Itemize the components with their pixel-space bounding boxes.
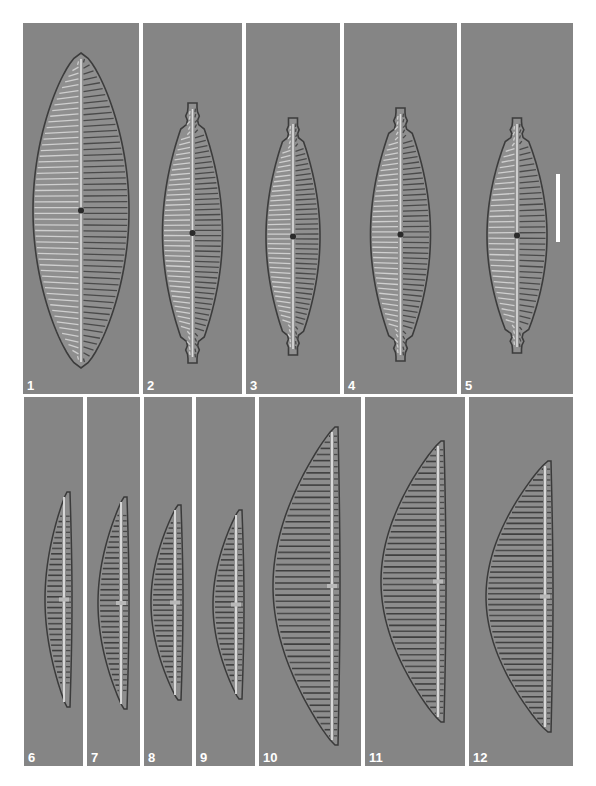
figure-label: 1 <box>27 379 34 392</box>
figure-panel-6: 6 <box>24 397 83 766</box>
figure-panel-9: 9 <box>196 397 255 766</box>
figure-label: 12 <box>473 751 487 764</box>
figure-label: 2 <box>147 379 154 392</box>
figure-label: 8 <box>148 751 155 764</box>
scale-bar <box>556 174 560 242</box>
figure-panel-5: 5 <box>461 23 573 394</box>
figure-label: 6 <box>28 751 35 764</box>
diatom-valve-image <box>196 397 255 766</box>
diatom-valve-image <box>344 23 457 394</box>
figure-panel-4: 4 <box>344 23 457 394</box>
diatom-valve-image <box>87 397 140 766</box>
diatom-valve-image <box>143 23 242 394</box>
figure-label: 9 <box>200 751 207 764</box>
diatom-valve-image <box>23 23 139 394</box>
figure-panel-8: 8 <box>144 397 192 766</box>
figure-label: 4 <box>348 379 355 392</box>
diatom-valve-image <box>246 23 340 394</box>
diatom-valve-image <box>259 397 361 766</box>
diatom-valve-image <box>365 397 465 766</box>
figure-panel-12: 12 <box>469 397 573 766</box>
figure-panel-10: 10 <box>259 397 361 766</box>
diatom-valve-image <box>144 397 192 766</box>
figure-panel-1: 1 <box>23 23 139 394</box>
figure-panel-11: 11 <box>365 397 465 766</box>
figure-panel-7: 7 <box>87 397 140 766</box>
figure-panel-3: 3 <box>246 23 340 394</box>
figure-label: 11 <box>369 751 383 764</box>
diatom-valve-image <box>469 397 573 766</box>
figure-panel-2: 2 <box>143 23 242 394</box>
figure-label: 10 <box>263 751 277 764</box>
diatom-valve-image <box>24 397 83 766</box>
figure-label: 3 <box>250 379 257 392</box>
figure-label: 7 <box>91 751 98 764</box>
figure-label: 5 <box>465 379 472 392</box>
